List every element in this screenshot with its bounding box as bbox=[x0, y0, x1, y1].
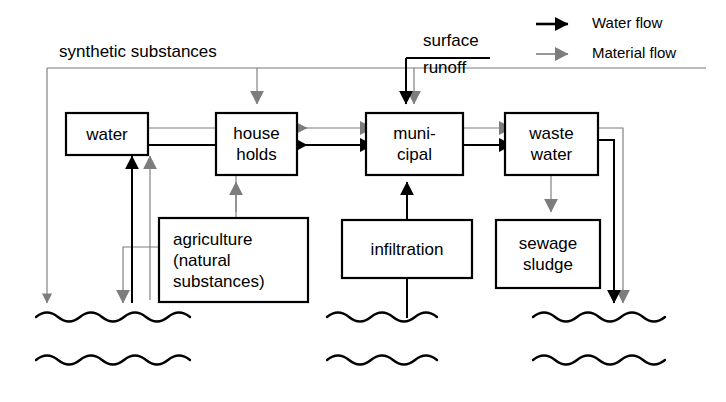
box-municipal bbox=[366, 113, 463, 175]
legend-label-material-flow: Material flow bbox=[592, 44, 676, 62]
label-surface: surface bbox=[423, 30, 479, 51]
label-synthetic-substances: synthetic substances bbox=[59, 41, 217, 62]
water-body-waves bbox=[36, 313, 665, 365]
label-runoff: runoff bbox=[423, 57, 466, 78]
wave-mid-upper bbox=[327, 313, 437, 322]
wave-left-lower bbox=[36, 356, 190, 365]
node-boxes bbox=[66, 113, 600, 302]
box-infiltration bbox=[342, 220, 472, 278]
diagram-canvas: water house holds muni- cipal waste wate… bbox=[0, 0, 726, 402]
wave-right-upper bbox=[533, 313, 665, 322]
edge-agriculture-to-waterbody bbox=[123, 247, 159, 303]
box-sewagesludge bbox=[496, 220, 600, 288]
box-households bbox=[216, 113, 297, 175]
box-agriculture bbox=[159, 218, 308, 302]
legend-arrows bbox=[536, 24, 568, 54]
edge-wastewater-to-waterbody-material bbox=[598, 128, 623, 303]
box-wastewater bbox=[505, 113, 598, 175]
legend-label-water-flow: Water flow bbox=[592, 14, 662, 32]
wave-left-upper bbox=[36, 313, 190, 322]
wave-mid-lower bbox=[327, 356, 437, 365]
wave-right-lower bbox=[533, 356, 665, 365]
box-water bbox=[66, 113, 148, 155]
